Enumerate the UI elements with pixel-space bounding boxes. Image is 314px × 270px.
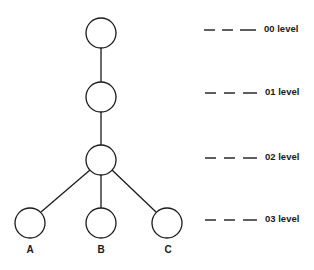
level-label-01: 01 level [265,86,299,97]
level-label-00: 00 level [264,23,298,34]
leaf-label-b: B [97,244,104,255]
node-B [86,208,116,238]
leaf-label-c: C [164,244,171,255]
edge-02-A [41,170,90,212]
tree-diagram [0,0,314,270]
level-label-02: 02 level [265,151,299,162]
node-level-02 [86,145,116,175]
level-dashes [204,30,257,220]
nodes [15,18,182,238]
edge-02-C [112,170,156,212]
node-A [15,208,45,238]
node-level-01 [86,82,116,112]
node-level-00 [86,18,116,48]
node-C [152,208,182,238]
edges [41,48,156,212]
level-label-03: 03 level [265,213,299,224]
leaf-label-a: A [26,244,33,255]
